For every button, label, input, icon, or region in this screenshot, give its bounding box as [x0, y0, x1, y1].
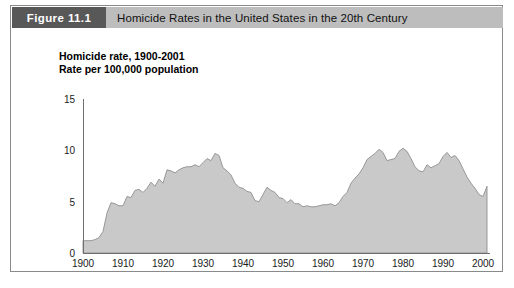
- x-tick-label: 1940: [232, 258, 255, 269]
- homicide-rate-area-series: [83, 148, 487, 253]
- figure-title: Homicide Rates in the United States in t…: [117, 12, 408, 24]
- y-tick-label: 5: [69, 197, 75, 208]
- x-tick-label: 1960: [312, 258, 335, 269]
- x-tick-label: 1910: [112, 258, 135, 269]
- plot-area: [83, 148, 487, 253]
- y-axis-tick-labels: 051015: [64, 94, 76, 259]
- x-tick-label: 1930: [192, 258, 215, 269]
- figure-number-label: Figure 11.1: [12, 7, 106, 28]
- homicide-rate-area-chart: 051015 190019101920193019401950196019701…: [11, 28, 502, 272]
- y-tick-label: 10: [64, 145, 76, 156]
- x-tick-label: 1950: [272, 258, 295, 269]
- x-tick-label: 1900: [72, 258, 95, 269]
- figure-title-strip: Homicide Rates in the United States in t…: [106, 7, 503, 28]
- x-tick-label: 1970: [352, 258, 375, 269]
- x-tick-label: 1920: [152, 258, 175, 269]
- figure-frame: Figure 11.1 Homicide Rates in the United…: [10, 5, 503, 272]
- x-tick-label: 1980: [392, 258, 415, 269]
- y-tick-label: 15: [64, 94, 76, 105]
- chart-area: Homicide rate, 1900-2001 Rate per 100,00…: [11, 28, 502, 272]
- figure-header: Figure 11.1 Homicide Rates in the United…: [12, 7, 503, 28]
- x-tick-label: 1990: [432, 258, 455, 269]
- x-tick-label: 2000: [472, 258, 495, 269]
- x-axis-tick-labels: 1900191019201930194019501960197019801990…: [72, 258, 495, 269]
